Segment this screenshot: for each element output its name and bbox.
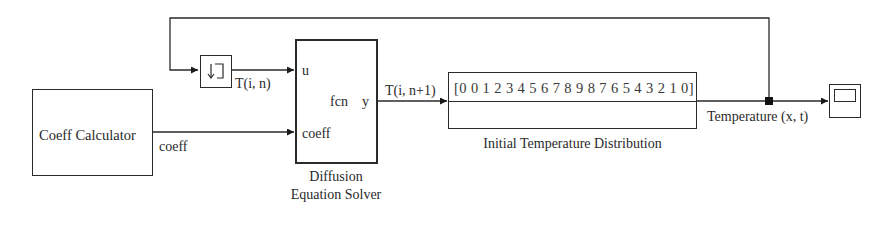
unit-delay-block[interactable] xyxy=(200,55,232,88)
signal-label-t-next: T(i, n+1) xyxy=(385,84,436,98)
signal-label-t-in: T(i, n) xyxy=(235,77,271,91)
solver-port-y: y xyxy=(362,95,369,109)
solver-port-u: u xyxy=(302,64,309,78)
coeff-calculator-block[interactable]: Coeff Calculator xyxy=(32,89,153,176)
initial-temperature-caption: Initial Temperature Distribution xyxy=(448,137,697,151)
solver-function-label: fcn xyxy=(330,95,348,109)
scope-block[interactable] xyxy=(829,84,861,118)
block-divider xyxy=(449,101,696,102)
initial-temperature-value: [0 0 1 2 3 4 5 6 7 8 9 8 7 6 5 4 3 2 1 0… xyxy=(454,81,694,96)
signal-label-coeff: coeff xyxy=(159,140,188,154)
branch-point xyxy=(765,97,773,105)
unit-delay-icon xyxy=(201,56,230,86)
solver-caption-line2: Equation Solver xyxy=(271,188,401,202)
initial-temperature-block[interactable]: [0 0 1 2 3 4 5 6 7 8 9 8 7 6 5 4 3 2 1 0… xyxy=(448,72,697,129)
signal-label-temperature: Temperature (x, t) xyxy=(707,110,808,124)
solver-caption-line1: Diffusion xyxy=(286,170,386,184)
scope-icon xyxy=(834,89,856,102)
coeff-calculator-label: Coeff Calculator xyxy=(39,128,136,143)
diffusion-solver-block[interactable]: u fcn y coeff xyxy=(295,39,378,164)
solver-port-coeff: coeff xyxy=(302,127,331,141)
